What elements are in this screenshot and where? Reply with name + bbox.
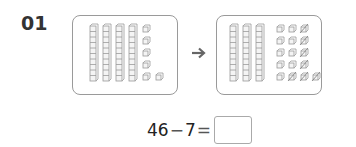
tens-rod xyxy=(90,24,98,81)
ones-cube xyxy=(143,73,150,80)
equation: 46 − 7 = xyxy=(147,116,252,144)
ones-cube-crossed xyxy=(300,60,308,69)
tens-rod xyxy=(103,24,111,81)
ones-cube-crossed xyxy=(300,48,308,57)
subtrahend: 7 xyxy=(185,120,196,140)
before-blocks-panel xyxy=(72,15,178,95)
right-arrow-icon xyxy=(190,46,208,60)
ones-cube xyxy=(143,25,150,32)
ones-cube xyxy=(289,49,296,56)
tens-rod xyxy=(129,24,137,81)
tens-rod xyxy=(116,24,124,81)
ones-cube xyxy=(143,49,150,56)
ones-cube-crossed xyxy=(288,72,296,81)
ones-cube xyxy=(277,49,284,56)
ones-cube xyxy=(289,37,296,44)
ones-cube xyxy=(277,25,284,32)
ones-cube xyxy=(277,61,284,68)
ones-cube xyxy=(289,25,296,32)
ones-cube-crossed xyxy=(300,36,308,45)
tens-rod xyxy=(230,24,238,81)
base-ten-blocks-46 xyxy=(73,16,177,94)
ones-cube xyxy=(277,73,284,80)
base-ten-blocks-regrouped xyxy=(217,16,321,94)
ones-cube xyxy=(289,61,296,68)
minuend: 46 xyxy=(147,120,169,140)
tens-rod xyxy=(256,24,264,81)
question-number: 01 xyxy=(21,12,47,34)
tens-rod xyxy=(243,24,251,81)
ones-cube xyxy=(156,73,163,80)
ones-cube-crossed xyxy=(300,24,308,33)
answer-box[interactable] xyxy=(214,116,252,144)
ones-cube xyxy=(277,37,284,44)
equals-sign: = xyxy=(197,120,211,140)
ones-cube xyxy=(143,37,150,44)
ones-cube-crossed xyxy=(300,72,308,81)
ones-cube-crossed xyxy=(312,72,320,81)
minus-sign: − xyxy=(170,120,184,140)
after-blocks-panel xyxy=(216,15,322,95)
ones-cube xyxy=(143,61,150,68)
